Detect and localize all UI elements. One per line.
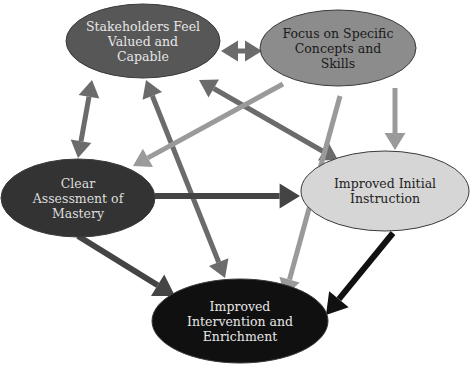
arrow-shaft xyxy=(78,236,158,285)
arrowhead-icon xyxy=(245,41,262,62)
arrow-stakeholders-to-intervention xyxy=(143,80,229,278)
arrow-stakeholders-to-focus xyxy=(221,41,262,62)
node-instruction xyxy=(301,151,469,231)
node-intervention xyxy=(152,279,328,363)
arrowhead-icon xyxy=(71,139,92,158)
arrow-focus-to-instruction xyxy=(385,88,406,150)
arrow-shaft xyxy=(148,84,283,158)
arrow-instruction-to-intervention xyxy=(326,233,393,315)
arrow-shaft xyxy=(152,96,218,262)
arrow-shaft xyxy=(81,97,89,142)
arrowhead-icon xyxy=(79,80,100,99)
arrow-assessment-to-instruction xyxy=(155,183,300,208)
node-focus xyxy=(260,10,416,86)
cycle-diagram: Stakeholders Feel Valued and Capable Foc… xyxy=(0,0,471,375)
arrowhead-icon xyxy=(280,183,300,208)
arrow-stakeholders-to-assessment xyxy=(71,80,100,158)
diagram-canvas xyxy=(0,0,471,375)
arrowhead-icon xyxy=(385,133,406,150)
arrow-shaft xyxy=(214,88,324,151)
node-stakeholders xyxy=(66,4,220,78)
node-assessment xyxy=(1,159,155,237)
arrowhead-icon xyxy=(221,41,238,62)
arrow-assessment-to-intervention xyxy=(78,236,175,296)
arrow-shaft xyxy=(339,233,393,299)
